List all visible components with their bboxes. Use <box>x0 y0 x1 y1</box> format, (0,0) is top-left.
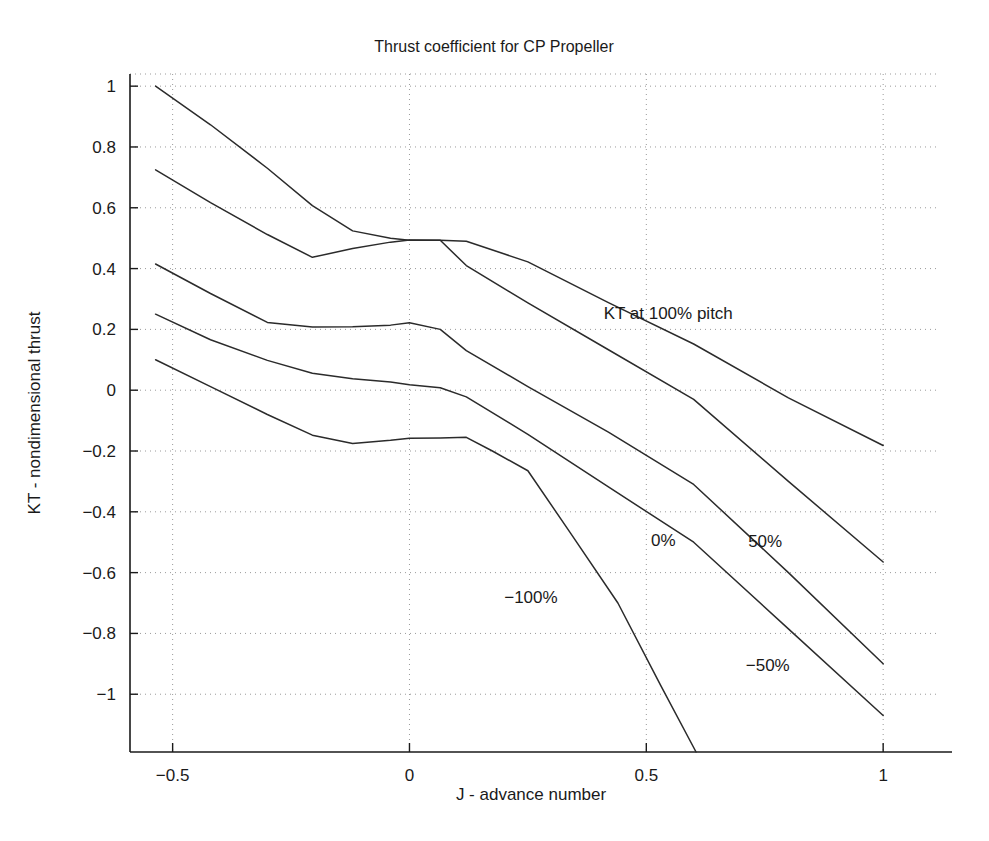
curve-annotations: KT at 100% pitch50%0%−50%−100% <box>504 304 790 676</box>
y-axis-title: KT - nondimensional thrust <box>25 311 44 514</box>
figure-container: Thrust coefficient for CP Propeller 10.8… <box>0 0 989 841</box>
data-curve <box>156 86 884 445</box>
x-tick-label: 0.5 <box>634 766 658 785</box>
chart-title: Thrust coefficient for CP Propeller <box>374 38 614 55</box>
x-tick-label: 1 <box>878 766 887 785</box>
data-curve <box>156 314 884 715</box>
y-tick-labels: 10.80.60.40.20−0.2−0.4−0.6−0.8−1 <box>82 77 116 704</box>
curve-label: −100% <box>504 588 557 607</box>
chart-svg: Thrust coefficient for CP Propeller 10.8… <box>0 0 989 841</box>
y-tick-label: −0.2 <box>82 442 116 461</box>
x-tick-labels: −0.500.51 <box>156 766 888 785</box>
x-axis-title: J - advance number <box>456 785 607 804</box>
y-tick-label: 0.4 <box>92 260 116 279</box>
y-tick-label: −0.8 <box>82 624 116 643</box>
data-curve <box>156 170 884 562</box>
curve-label: KT at 100% pitch <box>604 304 733 323</box>
data-curve <box>156 360 696 752</box>
y-tick-label: 0.6 <box>92 199 116 218</box>
x-tick-label: −0.5 <box>156 766 190 785</box>
curve-label: 0% <box>651 531 676 550</box>
tickmarks <box>130 86 883 752</box>
y-tick-label: −0.4 <box>82 503 116 522</box>
y-tick-label: 0.2 <box>92 320 116 339</box>
curve-label: 50% <box>748 532 782 551</box>
y-tick-label: 0 <box>107 381 116 400</box>
y-tick-label: 1 <box>107 77 116 96</box>
x-tick-label: 0 <box>405 766 414 785</box>
data-curves <box>156 86 884 752</box>
y-tick-label: 0.8 <box>92 138 116 157</box>
y-tick-label: −0.6 <box>82 564 116 583</box>
curve-label: −50% <box>746 656 790 675</box>
y-tick-label: −1 <box>97 685 116 704</box>
